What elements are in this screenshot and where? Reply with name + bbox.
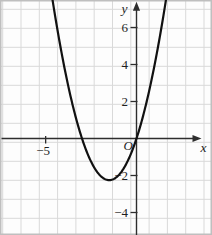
y-tick-label: 2: [122, 94, 129, 109]
x-tick-label: −5: [36, 143, 50, 158]
y-tick-label: 4: [122, 57, 129, 72]
y-axis-label: y: [120, 1, 128, 16]
x-axis-label: x: [200, 140, 207, 155]
parabola-chart: 642−2−4−5yxO: [0, 0, 212, 235]
graph-figure: 642−2−4−5yxO: [0, 0, 212, 235]
y-tick-label: 6: [122, 20, 129, 35]
y-tick-label: −4: [114, 205, 128, 220]
y-tick-label: −2: [114, 168, 128, 183]
